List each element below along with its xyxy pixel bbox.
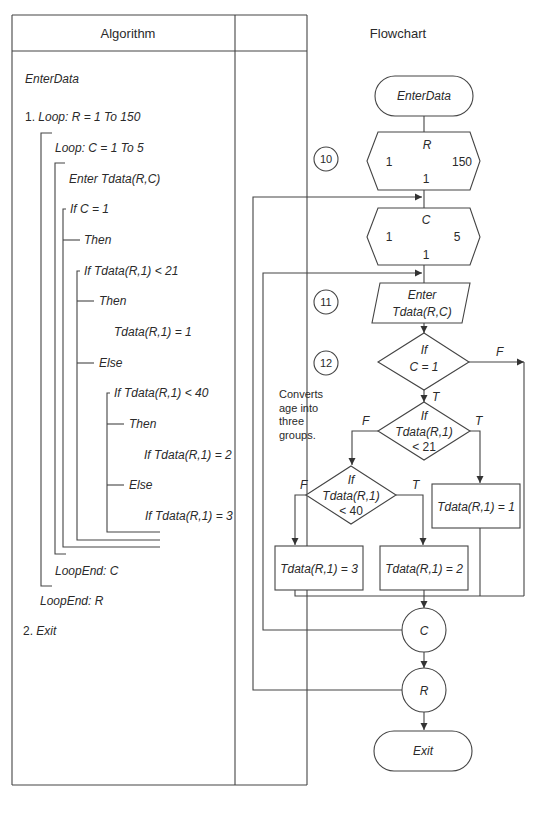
assign-2-line: If Tdata(R,1) = 2 [144,448,232,462]
svg-text:12: 12 [320,357,332,369]
svg-text:EnterData: EnterData [397,89,451,103]
svg-text:1: 1 [386,230,393,244]
if-lt21-line: If Tdata(R,1) < 21 [84,264,178,278]
svg-text:Tdata(R,C): Tdata(R,C) [392,305,451,319]
algorithm-column-header: Algorithm [101,26,156,41]
svg-text:1: 1 [423,248,430,262]
svg-text:R: R [423,138,432,152]
flowchart: EnterData R 1 150 1 10 C 1 5 1 Enter [253,76,524,771]
svg-text:Tdata(R,1) = 1: Tdata(R,1) = 1 [437,500,515,514]
connector-c: C [402,608,446,652]
decision3-false-label: F [300,478,308,492]
svg-text:three: three [279,415,304,427]
assign-1-line: Tdata(R,1) = 1 [114,325,192,339]
enter-tdata-line: Enter Tdata(R,C) [69,172,160,186]
connector-r: R [402,668,446,712]
svg-text:C: C [422,213,431,227]
svg-text:150: 150 [452,155,472,169]
process-assign-3: Tdata(R,1) = 3 [275,546,363,590]
exit-terminal: Exit [374,731,472,771]
algorithm-pseudocode: EnterData 1. Loop: R = 1 To 150 Loop: C … [23,72,233,638]
svg-text:Tdata(R,1): Tdata(R,1) [322,489,379,503]
svg-text:Enter: Enter [408,288,438,302]
svg-text:< 40: < 40 [339,504,363,518]
else-line-1: Else [99,356,123,370]
svg-text:Exit: Exit [413,744,434,758]
then-line-2: Then [99,294,127,308]
algorithm-flowchart-diagram: Algorithm Flowchart EnterData 1. Loop: R… [0,0,559,815]
svg-text:10: 10 [320,153,332,165]
svg-text:age into: age into [279,402,318,414]
svg-text:C: C [420,624,429,638]
decision-c-equals-1: If C = 1 [378,333,469,390]
step-marker-11: 11 [314,290,338,314]
svg-text:Tdata(R,1) = 3: Tdata(R,1) = 3 [280,562,358,576]
svg-text:C = 1: C = 1 [409,360,438,374]
svg-text:R: R [420,684,429,698]
if-c-line: If C = 1 [70,202,109,216]
loop-c-hexagon: C 1 5 1 [367,208,480,265]
svg-text:Tdata(R,1) = 2: Tdata(R,1) = 2 [385,562,463,576]
algorithm-step-2: 2. Exit [23,624,57,638]
svg-text:5: 5 [454,230,461,244]
process-assign-2: Tdata(R,1) = 2 [380,546,468,590]
svg-text:1: 1 [423,172,430,186]
annotation-note: Converts age into three groups. [279,388,324,441]
assign-3-line: If Tdata(R,1) = 3 [145,509,233,523]
decision-lt-21: If Tdata(R,1) < 21 [378,402,470,460]
input-parallelogram: Enter Tdata(R,C) [372,283,470,323]
svg-text:groups.: groups. [279,429,316,441]
decision1-false-label: F [496,345,504,359]
loopend-c-line: LoopEnd: C [55,564,119,578]
decision2-false-label: F [362,414,370,428]
loop-c-line: Loop: C = 1 To 5 [55,141,144,155]
process-assign-1: Tdata(R,1) = 1 [432,484,520,528]
svg-text:Converts: Converts [279,388,324,400]
step-marker-12: 12 [314,351,338,375]
else-line-2: Else [129,478,153,492]
svg-text:11: 11 [320,296,331,308]
svg-text:1: 1 [386,155,393,169]
decision1-true-label: T [432,390,441,404]
loopend-r-line: LoopEnd: R [40,594,104,608]
if-lt40-line: If Tdata(R,1) < 40 [114,386,209,400]
svg-text:< 21: < 21 [412,440,436,454]
start-terminal: EnterData [375,76,473,116]
decision-lt-40: If Tdata(R,1) < 40 [306,466,396,524]
svg-text:Tdata(R,1): Tdata(R,1) [395,425,452,439]
decision2-true-label: T [475,414,484,428]
loop-r-hexagon: R 1 150 1 [367,132,480,190]
step-marker-10: 10 [314,147,338,171]
algorithm-title: EnterData [25,72,79,86]
flowchart-column-header: Flowchart [370,26,427,41]
algorithm-step-1: 1. Loop: R = 1 To 150 [25,110,141,124]
decision3-true-label: T [412,478,421,492]
then-line-1: Then [84,233,112,247]
then-line-3: Then [129,417,157,431]
